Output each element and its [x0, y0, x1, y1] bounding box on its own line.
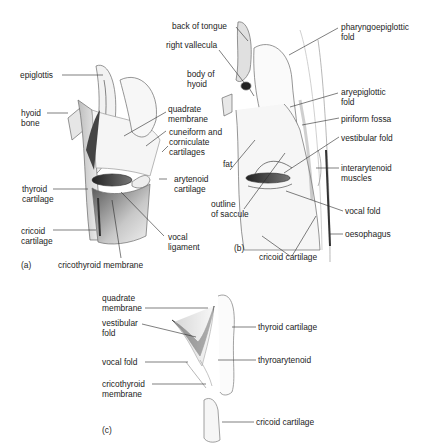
- label-oesophagus: oesophagus: [345, 229, 391, 239]
- label-vestibular-fold-b: vestibular fold: [341, 133, 393, 143]
- label-pharyngoepiglottic-fold: pharyngoepiglottic fold: [341, 22, 409, 42]
- label-fat: fat: [223, 159, 232, 169]
- label-aryepiglottic-fold: aryepiglottic fold: [341, 87, 386, 107]
- panel-b-drawing: [222, 22, 330, 262]
- larynx-illustrations: [0, 0, 431, 443]
- label-quadrate-membrane-a: quadrate membrane: [168, 104, 208, 124]
- panel-c-drawing: [172, 295, 234, 442]
- label-vocal-ligament: vocal ligament: [168, 232, 200, 252]
- label-vocal-fold-c: vocal fold: [102, 357, 137, 367]
- panel-c-tag: (c): [102, 425, 112, 435]
- label-cricoid-cartilage-c: cricoid cartilage: [256, 417, 314, 427]
- label-right-vallecula: right vallecula: [166, 40, 217, 50]
- label-thyroarytenoid: thyroarytenoid: [258, 355, 311, 365]
- label-thyroid-cartilage-a: thyroid cartilage: [22, 184, 54, 204]
- label-cricoid-cartilage-b: cricoid cartilage: [259, 252, 317, 262]
- label-piriform-fossa: piriform fossa: [341, 114, 391, 124]
- label-quadrate-membrane-c: quadrate membrane: [102, 293, 142, 313]
- label-body-of-hyoid: body of hyoid: [187, 69, 214, 89]
- label-vocal-fold-b: vocal fold: [345, 206, 380, 216]
- label-arytenoid-cartilage: arytenoid cartilage: [174, 174, 208, 194]
- label-interarytenoid-muscles: interarytenoid muscles: [341, 163, 392, 183]
- label-hyoid-bone: hyoid bone: [21, 108, 41, 128]
- label-thyroid-cartilage-c: thyroid cartilage: [258, 322, 317, 332]
- panel-a-tag: (a): [21, 260, 31, 270]
- label-cricothyroid-membrane-c: cricothyroid membrane: [102, 379, 145, 399]
- label-vestibular-fold-c: vestibular fold: [102, 318, 138, 338]
- panel-b-tag: (b): [234, 243, 244, 253]
- label-cuneiform-corniculate: cuneiform and corniculate cartilages: [169, 127, 222, 157]
- label-epiglottis: epiglottis: [20, 70, 53, 80]
- panel-a-drawing: [68, 65, 160, 244]
- label-back-of-tongue: back of tongue: [172, 21, 227, 31]
- label-cricoid-cartilage-a: cricoid cartilage: [21, 226, 53, 246]
- label-cricothyroid-membrane-a: cricothyroid membrane: [58, 260, 143, 270]
- label-outline-of-saccule: outline of saccule: [211, 199, 249, 219]
